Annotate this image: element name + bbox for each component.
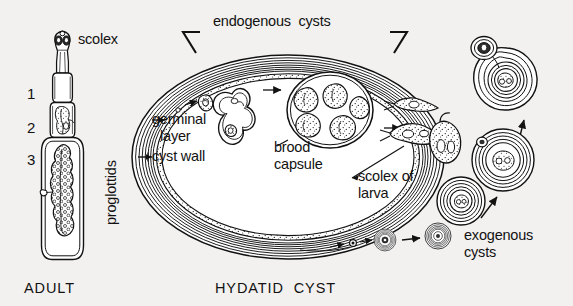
label-cyst-wall: cyst wall (152, 149, 205, 164)
proglottid-1 (53, 73, 73, 103)
label-scolex: scolex (78, 32, 118, 47)
attached-bud (471, 37, 497, 60)
label-scolex-of-larva-line2: larva (358, 186, 388, 201)
emerging-cyst (374, 229, 396, 251)
label-endogenous-cysts: endogenous cysts (213, 14, 331, 29)
label-exogenous-cysts-line2: cysts (464, 245, 496, 260)
label-brood-capsule-line1: brood (274, 140, 310, 155)
label-segment-1: 1 (27, 86, 35, 101)
label-brood-capsule-line2: capsule (274, 157, 323, 172)
label-segment-3: 3 (27, 152, 35, 167)
label-exogenous-cysts-line1: exogenous (464, 228, 533, 243)
exogenous-cyst-2 (472, 129, 534, 191)
label-proglottids: proglottids (104, 160, 119, 225)
exogenous-cyst-3 (437, 177, 485, 225)
caption-adult: ADULT (24, 281, 75, 296)
label-germinal-layer-line1: germinal (152, 112, 206, 127)
label-scolex-of-larva-line1: scolex of (358, 169, 413, 184)
label-segment-2: 2 (27, 120, 35, 135)
exogenous-cyst-4 (425, 223, 451, 249)
label-germinal-layer-line2: layer (160, 129, 190, 144)
scolex-head (55, 31, 70, 50)
proglottid-3-gravid (40, 138, 83, 260)
brood-capsule (287, 72, 373, 148)
proglottid-2 (50, 103, 75, 138)
caption-hydatid-cyst: HYDATID CYST (215, 281, 336, 296)
neck (56, 51, 68, 74)
